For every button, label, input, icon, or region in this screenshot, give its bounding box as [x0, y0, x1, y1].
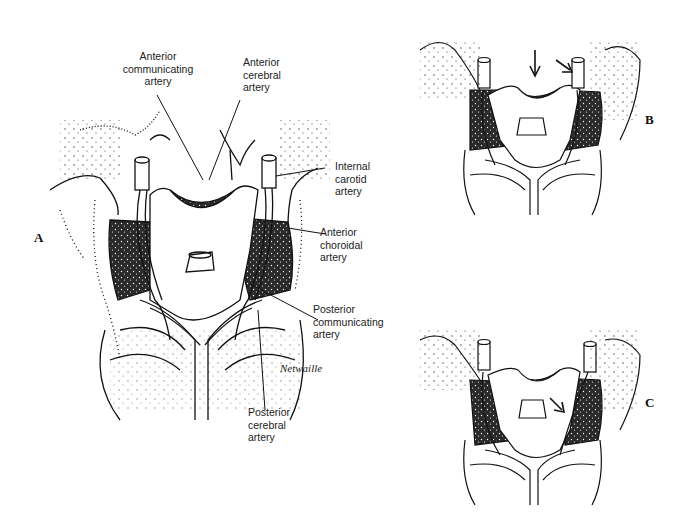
label-line: cerebral: [248, 419, 290, 432]
label-line: artery: [118, 75, 198, 88]
label-line: communicating: [118, 63, 198, 76]
artist-signature: Netwaille: [280, 362, 322, 374]
label-anterior-choroidal-artery: Anterior choroidal artery: [320, 226, 363, 264]
panel-c-drawing: [420, 330, 640, 505]
label-line: artery: [243, 81, 281, 94]
label-line: cerebral: [243, 69, 281, 82]
label-internal-carotid-artery: Internal carotid artery: [335, 160, 370, 198]
label-line: Posterior: [248, 406, 290, 419]
label-line: artery: [248, 431, 290, 444]
label-line: choroidal: [320, 239, 363, 252]
label-posterior-communicating-artery: Posterior communicating artery: [313, 303, 384, 341]
label-line: Internal: [335, 160, 370, 173]
panel-b-drawing: [420, 40, 640, 215]
label-line: Anterior: [118, 50, 198, 63]
label-line: artery: [320, 251, 363, 264]
label-line: Anterior: [243, 56, 281, 69]
label-posterior-cerebral-artery: Posterior cerebral artery: [248, 406, 290, 444]
panel-letter-a: A: [34, 230, 43, 246]
label-anterior-cerebral-artery: Anterior cerebral artery: [243, 56, 281, 94]
label-line: artery: [335, 185, 370, 198]
label-line: communicating: [313, 316, 384, 329]
panel-letter-c: C: [645, 395, 654, 411]
label-line: carotid: [335, 173, 370, 186]
label-line: artery: [313, 328, 384, 341]
label-line: Anterior: [320, 226, 363, 239]
panel-letter-b: B: [645, 112, 654, 128]
label-anterior-communicating-artery: Anterior communicating artery: [118, 50, 198, 88]
label-line: Posterior: [313, 303, 384, 316]
